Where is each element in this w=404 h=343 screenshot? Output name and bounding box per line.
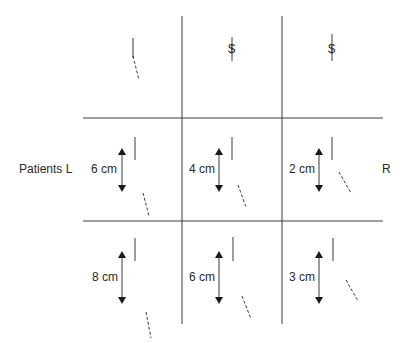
cell-0-1-dollar-symbol: $ (228, 42, 235, 56)
cell-0-2-dollar-symbol: $ (328, 42, 335, 56)
cell-2-2-measurement: 3 cm (289, 270, 315, 284)
cell-1-0-measurement: 6 cm (91, 162, 117, 176)
cell-0-0-marker (133, 38, 139, 80)
cell-2-1-measurement: 6 cm (189, 270, 215, 284)
cell-2-1-marker (215, 237, 251, 319)
cell-1-1-marker (215, 137, 246, 207)
diagram-canvas: Patients L R $ $ 6 cm 4 cm 2 cm 8 cm 6 c… (0, 0, 404, 343)
cell-1-1-measurement: 4 cm (189, 162, 215, 176)
patients-left-label: Patients L (19, 162, 72, 176)
cell-1-2-measurement: 2 cm (289, 162, 315, 176)
cell-1-2-marker (315, 137, 351, 193)
right-side-label: R (382, 162, 391, 176)
cell-2-0-marker (118, 238, 151, 338)
cell-2-2-marker (315, 238, 358, 304)
cell-2-0-measurement: 8 cm (92, 270, 118, 284)
grid-lines (83, 16, 383, 324)
cell-1-0-marker (118, 137, 149, 216)
